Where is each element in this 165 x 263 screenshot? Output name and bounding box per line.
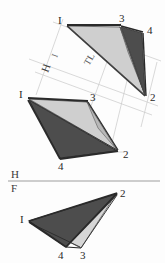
vertex-label-3: 3	[119, 12, 125, 24]
fold-line-f-letter: F	[11, 182, 17, 194]
descriptive-geometry-figure: I H TL I 3 4 2	[0, 0, 165, 263]
figure-canvas: I H TL I 3 4 2	[0, 0, 165, 263]
true-length-label: TL	[82, 51, 97, 67]
aux-fold-line-labels: I H	[39, 52, 60, 73]
vertex-label-4: 4	[58, 160, 64, 172]
vertex-label-2: 2	[123, 148, 129, 160]
vertex-label-1: I	[19, 88, 23, 100]
vertex-label-2: 2	[150, 91, 156, 103]
fold-line-h-letter: H	[11, 168, 19, 180]
vertex-label-4: 4	[147, 24, 153, 36]
aux-fold-upper-letter: I	[49, 52, 59, 58]
aux-fold-lower-letter: H	[39, 62, 53, 74]
vertex-label-3: 3	[90, 91, 96, 103]
vertex-label-1: I	[20, 213, 24, 225]
auxiliary-view-solid	[67, 25, 146, 96]
frontal-view-solid	[29, 193, 117, 248]
horizontal-view-solid	[28, 98, 118, 159]
vertex-label-3: 3	[80, 249, 86, 261]
hf-fold-line-group: H F	[8, 168, 160, 194]
vertex-label-4: 4	[58, 249, 64, 261]
vertex-label-1: I	[58, 14, 62, 26]
vertex-label-2: 2	[120, 187, 126, 199]
